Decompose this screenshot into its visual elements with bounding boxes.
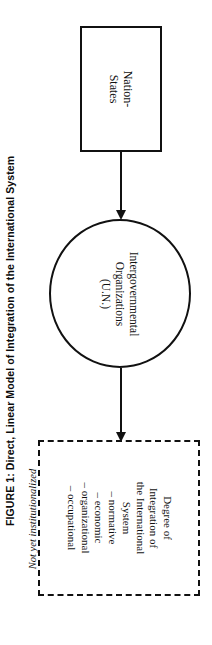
node-igo-label-line-3: (U.N.) — [100, 278, 112, 308]
node-nation-states-label-line-1: Nation- — [121, 71, 135, 108]
node-intergovernmental-organizations: Intergovernmental Organizations (U.N.) — [49, 219, 191, 368]
list-item: – normative — [105, 443, 119, 593]
arrow-shaft — [120, 368, 122, 432]
node-igo-label-line-1: Intergovernmental — [128, 251, 140, 336]
node-nation-states-label-line-2: States — [107, 75, 121, 104]
arrow-shaft — [120, 152, 122, 210]
arrow-nation-states-to-igo — [115, 152, 127, 220]
node-nation-states-label: Nation- States — [107, 71, 135, 108]
running-head: INTERNATIONAL ORGANIZATIONS — [22, 0, 194, 2]
degree-heading-line-3: the International — [133, 443, 147, 593]
degree-heading-line-1: Degree of — [160, 443, 174, 593]
node-degree-of-integration-content: Degree of Integration of the Internation… — [65, 443, 174, 593]
node-igo-label: Intergovernmental Organizations (U.N.) — [99, 251, 141, 336]
running-head-text: INTERNATIONAL ORGANIZATIONS — [22, 0, 194, 2]
list-item: – organizational — [78, 443, 92, 593]
figure-caption: FIGURE 1: Direct, Linear Model of Integr… — [2, 134, 18, 526]
list-item: – economic — [92, 443, 106, 593]
degree-heading-line-4: System — [120, 443, 134, 593]
annotation-not-yet-institutionalized: Not yet institutionalized — [26, 444, 40, 594]
node-degree-of-integration: Degree of Integration of the Internation… — [38, 440, 200, 596]
list-item: – occupational — [65, 443, 79, 593]
degree-item-list: – normative – economic – organizational … — [65, 443, 119, 593]
node-igo-label-line-2: Organizations — [114, 261, 126, 325]
arrow-igo-to-degree-of-integration — [115, 368, 127, 442]
node-nation-states: Nation- States — [80, 26, 162, 152]
degree-heading-line-2: Integration of — [147, 443, 161, 593]
